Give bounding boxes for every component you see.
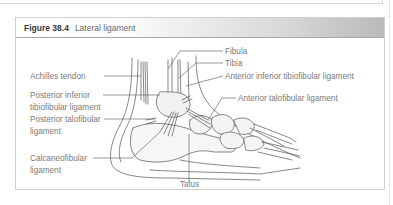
label-anterior-inferior-tibiofibular: Anterior inferior tibiofibular ligament [225, 72, 355, 81]
label-calcaneofibular-line2: ligament [30, 166, 62, 175]
label-tibia: Tibia [225, 59, 243, 68]
label-posterior-inferior-tibiofibular-line2: tibiofibular ligament [30, 103, 101, 112]
label-anterior-talofibular: Anterior talofibular ligament [238, 94, 338, 103]
label-posterior-inferior-tibiofibular-line1: Posterior inferior [30, 91, 90, 100]
label-calcaneofibular-line1: Calcaneofibular [30, 154, 87, 163]
label-fibula: Fibula [225, 47, 248, 56]
label-achilles-tendon: Achilles tendon [30, 72, 86, 81]
ankle-diagram: Fibula Tibia Anterior inferior tibiofibu… [0, 0, 393, 205]
label-posterior-talofibular-line2: ligament [30, 127, 62, 136]
label-talus: Talus [180, 180, 199, 189]
label-posterior-talofibular-line1: Posterior talofibular [30, 115, 101, 124]
